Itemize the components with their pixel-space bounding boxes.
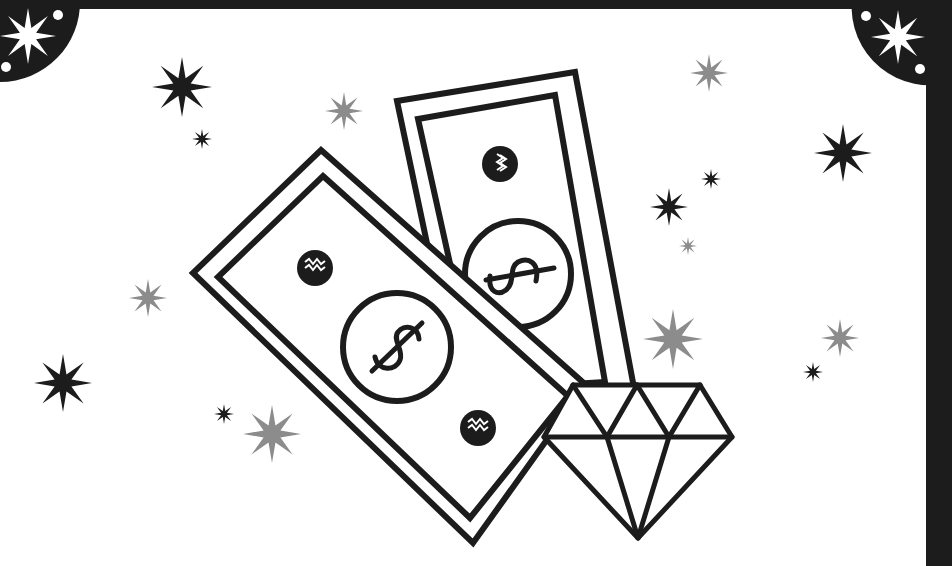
sparkle-icon (650, 188, 688, 226)
sparkle-icon (690, 54, 728, 92)
sparkle-icon (34, 354, 92, 412)
front-bill-seal-bottom (460, 410, 496, 446)
corner-star-icon (871, 10, 925, 64)
sparkle-icon (643, 309, 703, 369)
sparkle-icon (243, 405, 301, 463)
diamond (544, 385, 732, 538)
sparkle-icon (192, 129, 212, 149)
sparkle-icon (803, 362, 823, 382)
sparkle-icon (679, 237, 697, 255)
sparkle-icon (325, 92, 363, 130)
sparkle-icon (814, 124, 872, 182)
back-bill-seal (482, 146, 518, 182)
sparkle-icon (152, 57, 212, 117)
front-bill-dollar-medallion (343, 293, 451, 401)
corner-ornament-top-left (0, 0, 80, 82)
money-diamond-illustration (0, 0, 952, 566)
corner-ornament-top-right (852, 0, 952, 85)
sparkle-icon (701, 169, 721, 189)
sparkle-icon (129, 279, 167, 317)
front-bill-seal-top (297, 250, 333, 286)
sparkle-icon (214, 404, 234, 424)
sparkle-icon (821, 319, 859, 357)
corner-star-icon (0, 8, 56, 64)
illustration-frame (0, 0, 952, 566)
